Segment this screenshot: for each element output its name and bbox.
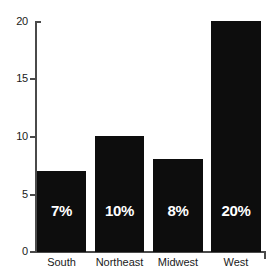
y-tick-label-20: 20 bbox=[2, 16, 28, 27]
bar-value-south: 7% bbox=[37, 203, 86, 218]
y-tick-mark-0 bbox=[30, 251, 36, 253]
bar-value-northeast: 10% bbox=[95, 203, 144, 218]
bar-northeast[interactable]: 10% bbox=[95, 136, 144, 252]
bar-west[interactable]: 20% bbox=[211, 21, 261, 252]
x-axis-end-tick bbox=[264, 252, 266, 259]
y-tick-label-10: 10 bbox=[2, 131, 28, 142]
bar-midwest[interactable]: 8% bbox=[153, 159, 203, 252]
y-tick-mark-20 bbox=[36, 21, 41, 23]
x-axis-label-south: South bbox=[37, 256, 86, 269]
y-tick-label-5: 5 bbox=[2, 189, 28, 200]
bar-value-midwest: 8% bbox=[153, 203, 203, 218]
y-tick-mark-10 bbox=[30, 136, 36, 138]
y-tick-label-15: 15 bbox=[2, 73, 28, 84]
bar-south[interactable]: 7% bbox=[37, 171, 86, 252]
x-axis-label-west: West bbox=[211, 256, 261, 269]
bar-value-west: 20% bbox=[211, 203, 261, 218]
x-axis-label-northeast: Northeast bbox=[90, 256, 149, 269]
x-axis-label-midwest: Midwest bbox=[151, 256, 205, 269]
y-tick-mark-15 bbox=[30, 78, 36, 80]
y-tick-mark-5 bbox=[30, 194, 36, 196]
y-tick-label-0: 0 bbox=[2, 246, 28, 257]
bar-chart: 20 15 10 5 0 7% 10% 8% 20% South Northea… bbox=[0, 0, 279, 278]
